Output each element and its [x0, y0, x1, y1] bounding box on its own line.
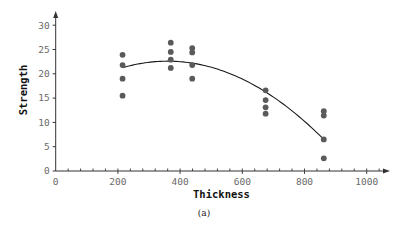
x-axis-label: Thickness	[193, 188, 250, 200]
x-axis: 02004006008001000	[53, 169, 390, 188]
data-point	[321, 137, 327, 143]
y-axis: 051015202530	[38, 11, 58, 176]
data-point	[120, 52, 126, 58]
scatter-plot: 051015202530 02004006008001000 Thickness…	[0, 0, 406, 229]
data-point	[263, 111, 269, 117]
figure-caption: (a)	[198, 208, 210, 218]
x-tick-label: 0	[53, 176, 59, 187]
chart: 051015202530 02004006008001000 Thickness…	[0, 0, 406, 229]
y-tick-label: 0	[44, 165, 50, 176]
data-point	[321, 113, 327, 119]
x-tick-label: 400	[172, 176, 189, 187]
y-tick-label: 10	[38, 117, 50, 128]
fit-curve-line	[123, 61, 324, 139]
data-point	[120, 76, 126, 82]
data-point	[263, 104, 269, 110]
data-point	[168, 49, 174, 55]
x-tick-label: 200	[109, 176, 126, 187]
y-tick-label: 5	[44, 141, 50, 152]
y-tick-label: 20	[38, 68, 50, 79]
data-point	[120, 62, 126, 68]
y-tick-label: 30	[38, 20, 50, 31]
y-tick-label: 25	[38, 44, 49, 55]
data-point	[189, 62, 195, 68]
data-point	[120, 93, 126, 99]
data-point	[168, 40, 174, 46]
data-point	[189, 76, 195, 82]
data-point	[189, 50, 195, 56]
y-axis-arrow-icon	[53, 11, 58, 18]
x-axis-arrow-icon	[383, 169, 390, 174]
x-tick-label: 1000	[355, 176, 378, 187]
data-point	[168, 65, 174, 71]
x-tick-label: 800	[296, 176, 313, 187]
y-tick-label: 15	[38, 92, 49, 103]
data-points	[120, 40, 327, 161]
data-point	[321, 155, 327, 161]
fit-curve	[123, 61, 324, 139]
data-point	[168, 57, 174, 63]
data-point	[263, 97, 269, 103]
x-tick-label: 600	[234, 176, 251, 187]
data-point	[263, 87, 269, 93]
y-axis-label: Strength	[17, 65, 29, 116]
